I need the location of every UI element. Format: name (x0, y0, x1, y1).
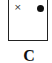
panel-box: × (8, 0, 48, 41)
cross-icon: × (14, 3, 22, 12)
panel-label: C (0, 48, 52, 63)
dot-icon (37, 5, 44, 12)
